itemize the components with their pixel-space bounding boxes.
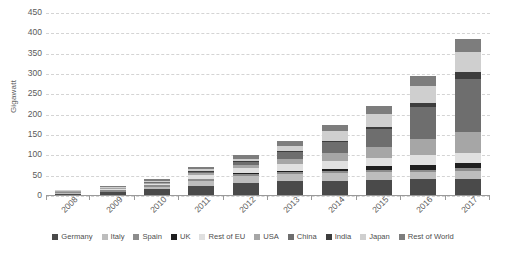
legend-item[interactable]: UK <box>171 232 191 241</box>
stacked-bar[interactable] <box>188 167 214 196</box>
bar-segment[interactable] <box>455 52 481 72</box>
bar-segment[interactable] <box>410 155 436 164</box>
stacked-bar[interactable] <box>322 125 348 196</box>
bar-segment[interactable] <box>410 76 436 86</box>
bar-segment[interactable] <box>322 153 348 161</box>
x-axis-label-cell: 2014 <box>312 199 356 225</box>
legend-label: India <box>335 232 351 241</box>
bar-segment[interactable] <box>322 131 348 140</box>
bar-slot <box>224 13 268 196</box>
legend-label: Italy <box>111 232 125 241</box>
bar-series-group <box>46 13 490 196</box>
bar-segment[interactable] <box>455 79 481 132</box>
legend-swatch-icon <box>199 234 205 240</box>
legend-item[interactable]: Rest of World <box>399 232 454 241</box>
bar-segment[interactable] <box>455 39 481 52</box>
x-axis-label-cell: 2012 <box>224 199 268 225</box>
stacked-bar[interactable] <box>144 179 170 196</box>
x-axis-label-cell: 2009 <box>90 199 134 225</box>
legend-label: UK <box>180 232 191 241</box>
legend-swatch-icon <box>288 234 294 240</box>
y-axis-tick-label: 0 <box>2 190 42 200</box>
bar-segment[interactable] <box>322 161 348 169</box>
bar-slot <box>90 13 134 196</box>
legend-item[interactable]: USA <box>254 232 279 241</box>
bar-segment[interactable] <box>410 139 436 156</box>
legend-label: Rest of EU <box>208 232 245 241</box>
bar-slot <box>268 13 312 196</box>
bar-slot <box>135 13 179 196</box>
x-axis-label-cell: 2017 <box>446 199 490 225</box>
x-axis-label-cell: 2011 <box>179 199 223 225</box>
chart-legend: GermanyItalySpainUKRest of EUUSAChinaInd… <box>0 232 506 241</box>
stacked-bar[interactable] <box>410 76 436 196</box>
bar-segment[interactable] <box>366 158 392 167</box>
bar-segment[interactable] <box>366 180 392 196</box>
legend-item[interactable]: Italy <box>102 232 125 241</box>
bar-slot <box>357 13 401 196</box>
legend-swatch-icon <box>399 234 405 240</box>
bar-segment[interactable] <box>455 179 481 196</box>
legend-swatch-icon <box>360 234 366 240</box>
bar-segment[interactable] <box>455 132 481 153</box>
y-axis-tick-labels: 450400350300250200150100500 <box>0 13 42 196</box>
legend-item[interactable]: Rest of EU <box>199 232 245 241</box>
y-axis-tick-label: 350 <box>2 48 42 58</box>
y-axis-tick-label: 400 <box>2 27 42 37</box>
legend-swatch-icon <box>52 234 58 240</box>
y-axis-tick-label: 150 <box>2 129 42 139</box>
legend-label: Spain <box>142 232 161 241</box>
legend-item[interactable]: India <box>326 232 351 241</box>
x-axis-label-cell: 2015 <box>357 199 401 225</box>
bar-segment[interactable] <box>455 153 481 163</box>
bar-segment[interactable] <box>455 72 481 79</box>
y-axis-tick-label: 100 <box>2 149 42 159</box>
legend-item[interactable]: Japan <box>360 232 390 241</box>
bar-segment[interactable] <box>366 106 392 114</box>
legend-swatch-icon <box>102 234 108 240</box>
legend-label: China <box>297 232 317 241</box>
x-axis-label-cell: 2010 <box>135 199 179 225</box>
bar-segment[interactable] <box>410 172 436 180</box>
legend-swatch-icon <box>326 234 332 240</box>
stacked-bar[interactable] <box>233 155 259 196</box>
bar-segment[interactable] <box>322 181 348 196</box>
y-axis-tick-label: 50 <box>2 170 42 180</box>
bar-slot <box>446 13 490 196</box>
legend-item[interactable]: Spain <box>133 232 161 241</box>
bar-segment[interactable] <box>277 181 303 196</box>
stacked-bar[interactable] <box>455 39 481 196</box>
bar-segment[interactable] <box>366 172 392 180</box>
bar-slot <box>401 13 445 196</box>
x-axis-label-cell: 2013 <box>268 199 312 225</box>
legend-swatch-icon <box>254 234 260 240</box>
bar-segment[interactable] <box>322 142 348 153</box>
bar-segment[interactable] <box>410 107 436 139</box>
y-axis-tick-label: 300 <box>2 68 42 78</box>
bar-segment[interactable] <box>277 174 303 181</box>
legend-swatch-icon <box>133 234 139 240</box>
x-axis-label-cell: 2008 <box>46 199 90 225</box>
bar-segment[interactable] <box>410 86 436 103</box>
bar-segment[interactable] <box>366 129 392 147</box>
bar-slot <box>179 13 223 196</box>
legend-item[interactable]: China <box>288 232 317 241</box>
bar-segment[interactable] <box>455 171 481 179</box>
bar-segment[interactable] <box>366 147 392 158</box>
stacked-bar[interactable] <box>366 106 392 196</box>
stacked-bar[interactable] <box>277 141 303 196</box>
legend-label: USA <box>263 232 279 241</box>
legend-item[interactable]: Germany <box>52 232 92 241</box>
bar-segment[interactable] <box>322 173 348 181</box>
y-axis-tick-label: 250 <box>2 88 42 98</box>
bar-segment[interactable] <box>410 179 436 196</box>
legend-swatch-icon <box>171 234 177 240</box>
plot-area <box>46 13 490 196</box>
legend-label: Rest of World <box>408 232 454 241</box>
stacked-bar-chart: Gigawatt 450400350300250200150100500 200… <box>0 0 506 257</box>
legend-label: Germany <box>61 232 92 241</box>
bar-segment[interactable] <box>277 152 303 159</box>
y-axis-tick-label: 450 <box>2 7 42 17</box>
bar-segment[interactable] <box>366 114 392 128</box>
bar-segment[interactable] <box>233 183 259 196</box>
